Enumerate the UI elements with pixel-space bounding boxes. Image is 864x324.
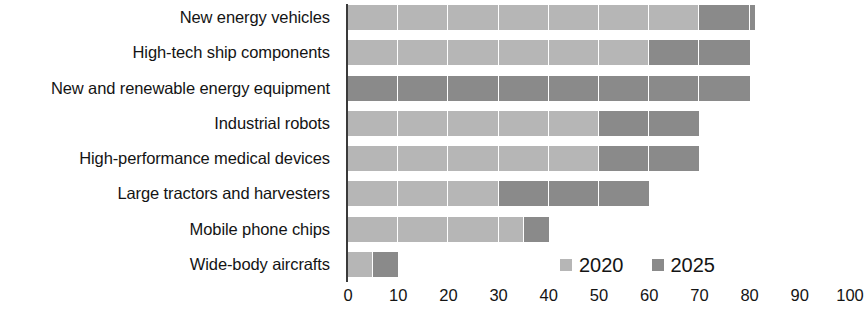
bar-segment xyxy=(499,5,549,30)
x-axis-tick-label: 10 xyxy=(389,286,407,305)
stacked-bar[interactable] xyxy=(348,111,699,136)
bar-segment xyxy=(348,5,398,30)
bar-segment xyxy=(398,146,448,171)
x-axis-ticks: 0102030405060708090100 xyxy=(346,286,850,312)
x-axis-tick-label: 30 xyxy=(489,286,507,305)
bar-segment xyxy=(499,181,549,206)
category-label: New and renewable energy equipment xyxy=(51,79,330,98)
bar-segment xyxy=(348,40,398,65)
legend-item-2020[interactable]: 2020 xyxy=(560,255,624,275)
bar-segment xyxy=(649,111,699,136)
bar-segment xyxy=(499,111,549,136)
bar-segment xyxy=(448,111,498,136)
stacked-bar[interactable] xyxy=(348,40,750,65)
bar-segment xyxy=(549,76,599,101)
bar-segment xyxy=(348,181,398,206)
bar-segment xyxy=(649,5,699,30)
chart-legend: 2020 2025 xyxy=(560,255,715,275)
bar-segment xyxy=(549,40,599,65)
x-axis-tick-label: 70 xyxy=(690,286,708,305)
x-axis-tick-label: 100 xyxy=(836,286,864,305)
bar-row xyxy=(348,106,850,141)
bar-segment xyxy=(649,76,699,101)
x-axis-tick-label: 20 xyxy=(439,286,457,305)
category-row: High-performance medical devices xyxy=(0,141,338,176)
bar-segment xyxy=(599,181,649,206)
bar-segment xyxy=(549,5,599,30)
bar-segment xyxy=(398,181,448,206)
bar-segment xyxy=(448,40,498,65)
category-label: High-tech ship components xyxy=(133,43,330,62)
bar-segment xyxy=(348,146,398,171)
bar-segment xyxy=(398,217,448,242)
stacked-bar[interactable] xyxy=(348,76,750,101)
stacked-bar[interactable] xyxy=(348,5,755,30)
bar-segment xyxy=(699,40,749,65)
bar-segment xyxy=(750,5,755,30)
bar-segment xyxy=(398,40,448,65)
x-axis-tick-label: 50 xyxy=(590,286,608,305)
bar-segment xyxy=(348,111,398,136)
bar-row xyxy=(348,0,850,35)
y-axis-category-labels: New energy vehicles High-tech ship compo… xyxy=(0,0,338,282)
bar-segment xyxy=(599,40,649,65)
bar-segment xyxy=(699,5,749,30)
bar-segment xyxy=(398,76,448,101)
stacked-bar[interactable] xyxy=(348,252,398,277)
bar-series-container xyxy=(348,0,850,282)
bar-segment xyxy=(499,40,549,65)
x-axis-tick-label: 80 xyxy=(740,286,758,305)
bar-segment xyxy=(649,40,699,65)
legend-label-2020: 2020 xyxy=(579,255,624,275)
bar-segment xyxy=(448,5,498,30)
bar-segment xyxy=(448,76,498,101)
bar-segment xyxy=(524,217,549,242)
bar-segment xyxy=(448,217,498,242)
category-label: New energy vehicles xyxy=(180,8,330,27)
legend-item-2025[interactable]: 2025 xyxy=(652,255,716,275)
bar-segment xyxy=(448,146,498,171)
category-row: New energy vehicles xyxy=(0,0,338,35)
category-label: Industrial robots xyxy=(214,114,330,133)
bar-segment xyxy=(398,111,448,136)
bar-segment xyxy=(499,217,524,242)
stacked-bar[interactable] xyxy=(348,146,699,171)
bar-segment xyxy=(348,76,398,101)
legend-swatch-2020-icon xyxy=(560,259,572,271)
bar-segment xyxy=(699,76,749,101)
bar-segment xyxy=(398,5,448,30)
bar-row xyxy=(348,71,850,106)
bar-segment xyxy=(348,217,398,242)
bar-segment xyxy=(649,146,699,171)
bar-row xyxy=(348,35,850,70)
category-row: High-tech ship components xyxy=(0,35,338,70)
category-row: Mobile phone chips xyxy=(0,212,338,247)
bar-row xyxy=(348,176,850,211)
x-axis-tick-label: 60 xyxy=(640,286,658,305)
x-axis-tick-label: 0 xyxy=(343,286,352,305)
bar-segment xyxy=(599,76,649,101)
bar-row xyxy=(348,141,850,176)
bar-row xyxy=(348,212,850,247)
bar-segment xyxy=(549,181,599,206)
stacked-bar[interactable] xyxy=(348,181,649,206)
category-row: New and renewable energy equipment xyxy=(0,71,338,106)
category-label: Large tractors and harvesters xyxy=(117,184,330,203)
x-axis-tick-label: 40 xyxy=(540,286,558,305)
category-label: Wide-body aircrafts xyxy=(190,255,330,274)
bar-segment xyxy=(499,146,549,171)
bar-segment xyxy=(549,146,599,171)
legend-swatch-2025-icon xyxy=(652,259,664,271)
category-row: Wide-body aircrafts xyxy=(0,247,338,282)
category-label: High-performance medical devices xyxy=(79,149,330,168)
stacked-bar[interactable] xyxy=(348,217,549,242)
plot-area xyxy=(346,0,850,282)
bar-segment xyxy=(599,146,649,171)
x-axis-tick-label: 90 xyxy=(791,286,809,305)
category-row: Large tractors and harvesters xyxy=(0,176,338,211)
bar-segment xyxy=(599,111,649,136)
bar-segment xyxy=(448,181,498,206)
bar-segment xyxy=(549,111,599,136)
category-label: Mobile phone chips xyxy=(190,220,330,239)
